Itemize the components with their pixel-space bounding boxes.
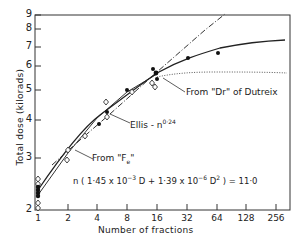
eq-part-c: D <box>207 176 216 186</box>
y-tick-7: 7 <box>18 40 32 51</box>
annotation-fe: From "Fe" <box>92 153 134 165</box>
x-tick-16: 16 <box>145 213 169 223</box>
eq-part-d: ) = 11·0 <box>220 176 257 186</box>
y-tick-9: 9 <box>18 8 32 19</box>
equation-annotation: n ( 1·45 x 10−3 D + 1·39 x 10−6 D2 ) = 1… <box>73 174 258 186</box>
x-tick-8: 8 <box>115 213 139 223</box>
open-diamond-markers <box>36 80 158 211</box>
dutreix-curve <box>38 40 285 190</box>
fe-pointer <box>75 150 93 159</box>
annotation-ellis: Ellis - n0·24 <box>130 118 176 130</box>
x-axis-title: Number of fractions <box>98 225 194 235</box>
x-tick-2: 2 <box>56 213 80 223</box>
y-axis-ticks <box>35 15 41 158</box>
annotation-dutreix: From "Dr" of Dutreix <box>186 87 278 97</box>
y-axis-title: Total dose (kilorads) <box>15 57 25 177</box>
x-tick-1: 1 <box>26 213 50 223</box>
fe-base: From "F <box>92 153 126 163</box>
x-tick-64: 64 <box>205 213 229 223</box>
x-tick-32: 32 <box>175 213 199 223</box>
lq-dotted-curve <box>157 72 287 77</box>
dutreix-pointer <box>163 78 185 92</box>
eq-part-b: D + 1·39 x 10 <box>136 176 198 186</box>
x-tick-256: 256 <box>264 213 288 223</box>
ellis-pointer <box>110 114 130 123</box>
y-tick-8: 8 <box>18 22 32 33</box>
x-tick-4: 4 <box>85 213 109 223</box>
eq-exp-b: −6 <box>198 174 207 181</box>
ellis-base: Ellis - n <box>130 120 163 130</box>
x-tick-128: 128 <box>234 213 258 223</box>
ellis-exponent: 0·24 <box>163 118 176 125</box>
x-axis-ticks <box>38 204 276 210</box>
eq-exp-a: −3 <box>127 174 136 181</box>
fe-end: " <box>130 153 134 163</box>
eq-part-a: n ( 1·45 x 10 <box>73 176 127 186</box>
